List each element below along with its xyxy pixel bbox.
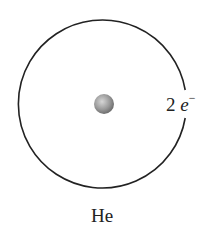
element-label: He (0, 206, 204, 225)
electron-count-label: 2 e− (166, 94, 195, 114)
nucleus (94, 94, 114, 114)
electron-symbol: e (180, 94, 188, 115)
electron-charge: − (189, 91, 196, 105)
atom-diagram (0, 0, 216, 233)
electron-count: 2 (166, 94, 176, 115)
